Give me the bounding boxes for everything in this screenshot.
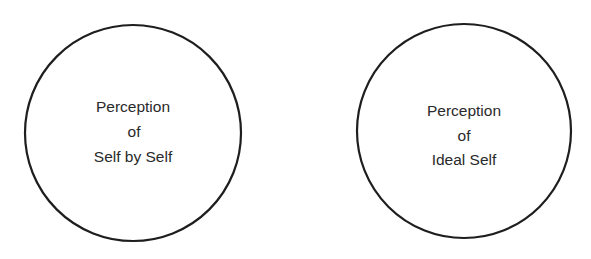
- circle-ideal-self: Perception of Ideal Self: [357, 24, 571, 238]
- circle-label-line: Ideal Self: [432, 151, 497, 168]
- circle-label-line: Perception: [96, 98, 170, 115]
- diagram-canvas: Perception of Self by Self Perception of…: [0, 0, 591, 259]
- circle-label-line: Perception: [427, 102, 501, 119]
- circle-self-by-self: Perception of Self by Self: [25, 25, 241, 241]
- circle-label-line: of: [458, 127, 472, 144]
- circle-label-line: of: [128, 123, 142, 140]
- circle-label-line: Self by Self: [94, 148, 173, 165]
